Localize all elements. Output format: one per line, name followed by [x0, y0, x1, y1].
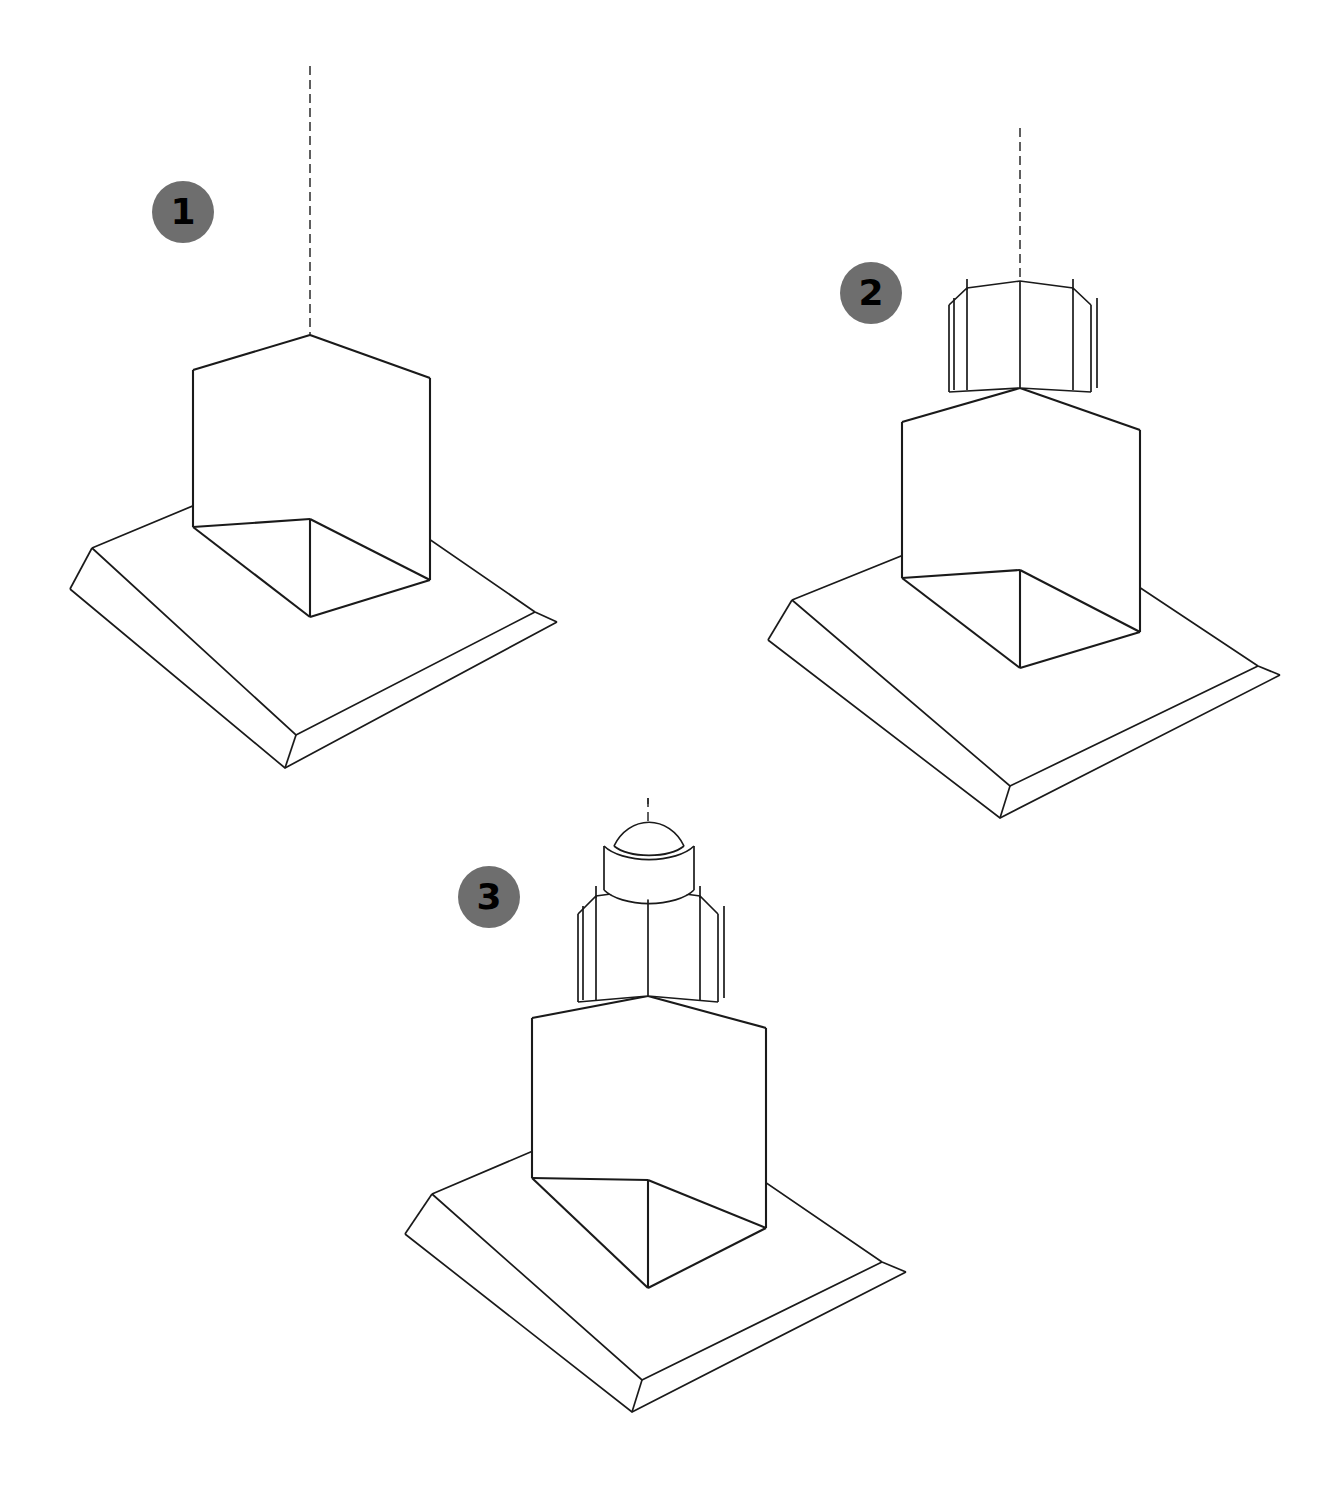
step-2-figure — [720, 0, 1335, 830]
step-3-figure — [350, 780, 970, 1495]
drawing-sheet: 1 2 — [0, 0, 1335, 1495]
step-1-figure — [0, 0, 620, 820]
